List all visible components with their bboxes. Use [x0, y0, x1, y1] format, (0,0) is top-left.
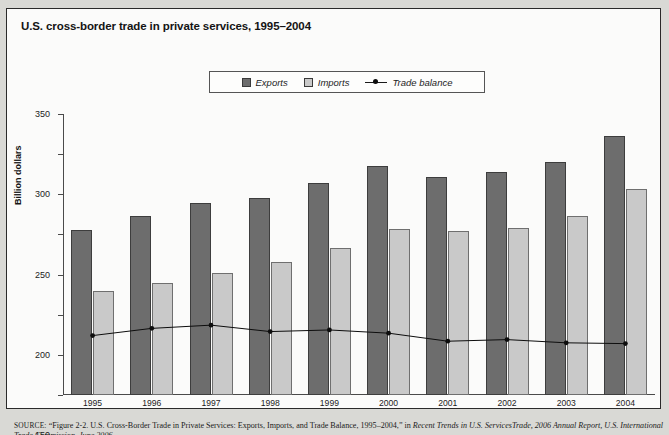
- legend-label-exports: Exports: [256, 77, 288, 88]
- source-prefix: SOURCE:: [14, 421, 47, 430]
- trade-balance-point: [209, 323, 214, 328]
- screenshot-page: U.S. cross-border trade in private servi…: [0, 0, 669, 435]
- plot-area: 050100150200250300350 199519961997199819…: [63, 114, 655, 395]
- trade-balance-point: [445, 339, 450, 344]
- source-line1-italic: Recent Trends in U.S. Services: [413, 421, 512, 430]
- legend-swatch-imports-icon: [304, 78, 313, 87]
- legend-item-exports: Exports: [242, 77, 288, 88]
- x-axis-tick-label: 2002: [486, 398, 529, 408]
- trade-balance-point: [268, 329, 273, 334]
- legend-item-imports: Imports: [304, 77, 350, 88]
- trade-balance-point: [386, 331, 391, 336]
- legend-line-marker-icon: [365, 78, 387, 87]
- y-axis-tick-label: 300: [35, 189, 50, 199]
- x-axis-tick-label: 2001: [426, 398, 469, 408]
- chart-legend: Exports Imports Trade balance: [209, 71, 485, 93]
- legend-swatch-exports-icon: [242, 78, 251, 87]
- trade-balance-point: [623, 341, 628, 346]
- source-note: SOURCE: “Figure 2-2. U.S. Cross-Border T…: [14, 421, 669, 435]
- y-axis-tick-label: 350: [35, 109, 50, 119]
- source-line1-plain: “Figure 2-2. U.S. Cross-Border Trade in …: [49, 421, 413, 430]
- page-title: U.S. cross-border trade in private servi…: [21, 20, 311, 32]
- figure-frame: U.S. cross-border trade in private servi…: [6, 8, 661, 409]
- x-axis-tick-label: 1997: [190, 398, 233, 408]
- x-axis-tick-label: 1996: [130, 398, 173, 408]
- y-axis-tick: 0: [58, 395, 63, 396]
- y-axis-tick-label: 200: [35, 350, 50, 360]
- x-axis-tick-label: 2004: [604, 398, 647, 408]
- x-axis-tick-label: 2003: [545, 398, 588, 408]
- trade-balance-point: [564, 340, 569, 345]
- legend-label-imports: Imports: [318, 77, 350, 88]
- y-axis-title: Billion dollars: [13, 145, 23, 205]
- trade-balance-point: [505, 337, 510, 342]
- trade-balance-line: [63, 114, 655, 395]
- trade-balance-point: [327, 328, 332, 333]
- trade-balance-point: [149, 326, 154, 331]
- x-axis-tick-label: 2000: [367, 398, 410, 408]
- trade-balance-point: [90, 333, 95, 338]
- legend-item-trade-balance: Trade balance: [365, 77, 452, 88]
- x-axis-tick-label: 1998: [249, 398, 292, 408]
- legend-label-trade-balance: Trade balance: [392, 77, 452, 88]
- x-axis-tick-label: 1995: [71, 398, 114, 408]
- y-axis-tick-label: 250: [35, 270, 50, 280]
- trade-balance-polyline: [93, 325, 626, 343]
- x-axis-tick-label: 1999: [308, 398, 351, 408]
